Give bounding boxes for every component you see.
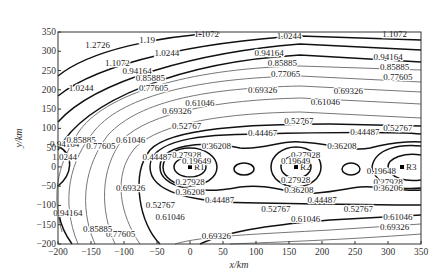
contour-label: 0.61046 bbox=[185, 98, 215, 108]
contour-label: 0.61046 bbox=[383, 212, 413, 222]
x-tick-label: −50 bbox=[150, 247, 165, 257]
contour-label: 0.19649 bbox=[182, 156, 212, 166]
x-tick-label: −100 bbox=[114, 247, 134, 257]
receiver-r3: R3 bbox=[400, 162, 417, 172]
y-tick-label: 50 bbox=[47, 143, 57, 153]
contour-label: 0.44487 bbox=[350, 127, 380, 137]
y-tick-label: −150 bbox=[36, 220, 56, 230]
y-tick-label: −200 bbox=[36, 239, 56, 249]
contour-label: 0.44487 bbox=[205, 195, 235, 205]
x-axis-label: x/km bbox=[229, 259, 249, 270]
y-tick-label: 350 bbox=[42, 27, 57, 37]
y-tick-label: −100 bbox=[36, 200, 56, 210]
contour-label: 1.0244 bbox=[52, 152, 77, 162]
contour-label: 0.36208 bbox=[175, 187, 205, 197]
x-tick-label: 100 bbox=[249, 247, 264, 257]
y-tick-label: −50 bbox=[41, 181, 56, 191]
contour-label: 0.36208 bbox=[327, 141, 357, 151]
contour-label: 0.69326 bbox=[380, 222, 410, 232]
contour-label: 0.36206 bbox=[373, 183, 403, 193]
contour-label: 0.61046 bbox=[311, 97, 341, 107]
contour-label: 0.85885 bbox=[380, 62, 410, 72]
x-tick-label: 200 bbox=[315, 247, 330, 257]
svg-text:R3: R3 bbox=[406, 162, 417, 172]
contour-label: 0.36208 bbox=[284, 185, 314, 195]
contour-chart: R1 R2 R3 1.27261.191.10721.10721.10721.0… bbox=[0, 0, 448, 278]
contour-label: 0.61046 bbox=[156, 212, 186, 222]
contour-label: 0.44487 bbox=[307, 195, 337, 205]
contour-label: 1.0244 bbox=[69, 83, 94, 93]
contour-label: 0.52767 bbox=[284, 116, 314, 126]
contour-label: 0.52767 bbox=[383, 123, 413, 133]
y-tick-label: 300 bbox=[42, 46, 57, 56]
contour-label: 0.52767 bbox=[344, 204, 374, 214]
contour-label: 0.27928 bbox=[281, 175, 311, 185]
contour-label: 0.19648 bbox=[367, 166, 397, 176]
contour-label: 0.69326 bbox=[202, 231, 232, 241]
contour-label: 0.44467 bbox=[248, 128, 278, 138]
contour-label: 1.0244 bbox=[155, 48, 180, 58]
contour-label: 0.94164 bbox=[255, 48, 285, 58]
contour-label: 0.69326 bbox=[116, 183, 146, 193]
contour-label: 0.94164 bbox=[373, 52, 403, 62]
x-tick-label: 350 bbox=[414, 247, 429, 257]
x-tick-label: 150 bbox=[282, 247, 297, 257]
contour-label: 0.77605 bbox=[86, 141, 116, 151]
contour-label: 0.77065 bbox=[271, 69, 301, 79]
contour-label: 0.52767 bbox=[146, 200, 176, 210]
contour-label: 0.19649 bbox=[281, 156, 311, 166]
contour-label: 1.1072 bbox=[194, 29, 219, 39]
y-axis-label: y/km bbox=[13, 129, 24, 149]
contour-label: 1.1072 bbox=[382, 29, 407, 39]
y-tick-label: 0 bbox=[51, 162, 56, 172]
x-tick-label: −150 bbox=[81, 247, 101, 257]
contour-label: 0.61046 bbox=[291, 214, 321, 224]
contour-label: 0.44487 bbox=[142, 152, 172, 162]
contour-label: 0.27928 bbox=[175, 177, 205, 187]
contour-label: 0.36208 bbox=[202, 141, 232, 151]
x-tick-label: 300 bbox=[381, 247, 396, 257]
contour-label: 0.77605 bbox=[383, 72, 413, 82]
y-tick-label: 150 bbox=[42, 104, 57, 114]
contour-label: 1.19 bbox=[139, 35, 155, 45]
x-tick-label: 0 bbox=[188, 247, 193, 257]
contour-label: 0.52767 bbox=[172, 121, 202, 131]
contour-label: 0.69326 bbox=[334, 86, 364, 96]
contour-label: 0.85885 bbox=[268, 58, 298, 68]
contour-label: 0.77605 bbox=[139, 83, 169, 93]
contour-label: 0.61046 bbox=[116, 135, 146, 145]
y-tick-label: 250 bbox=[42, 66, 57, 76]
y-tick-label: 200 bbox=[42, 85, 57, 95]
contour-label: 0.85885 bbox=[136, 73, 166, 83]
x-tick-label: 250 bbox=[348, 247, 363, 257]
contour-label: 1.2726 bbox=[85, 40, 110, 50]
x-tick-label: 50 bbox=[218, 247, 228, 257]
contour-label: 0.69326 bbox=[248, 85, 278, 95]
contour-label: 0.52767 bbox=[261, 204, 291, 214]
contour-label: 0.85885 bbox=[83, 224, 113, 234]
y-tick-label: 100 bbox=[42, 123, 57, 133]
